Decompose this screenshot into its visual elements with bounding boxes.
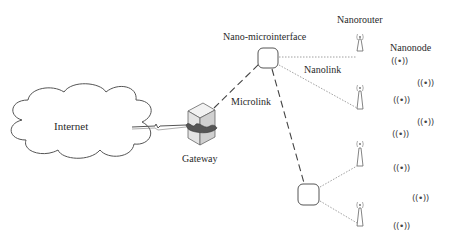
nanonode-icon: ((•)) (393, 221, 410, 231)
nanolink-label: Nanolink (304, 64, 341, 75)
nanonode-label: Nanonode (390, 42, 431, 53)
nanonode-icon: ((•)) (392, 129, 409, 139)
nanorouter-label: Nanorouter (337, 14, 383, 25)
nanorouter-icon (357, 34, 364, 51)
internet-label: Internet (54, 120, 88, 132)
nanonode-icon: ((•)) (417, 78, 434, 88)
nanonode-icon: ((•)) (417, 117, 434, 127)
nano-microinterface-1 (258, 48, 278, 68)
nanolink-4 (320, 201, 357, 223)
nanonode-icon: ((•)) (393, 95, 410, 105)
nanorouter-icon (357, 85, 364, 109)
nanorouter-icon (357, 141, 364, 166)
nanonode-icon: ((•)) (393, 163, 410, 173)
nanonode-icon: ((•)) (412, 193, 429, 203)
nanolink-3 (320, 166, 357, 187)
gateway-label: Gateway (182, 153, 218, 164)
nanorouter-icon (357, 202, 364, 226)
gateway-server-icon (186, 103, 217, 145)
nano-microinterface-label: Nano-microinterface (223, 31, 306, 42)
microlink-label: Microlink (231, 96, 271, 107)
nano-microinterface-2 (298, 184, 319, 205)
nanonode-icon: ((•)) (391, 56, 408, 66)
microlink-interface-interface (272, 69, 304, 183)
